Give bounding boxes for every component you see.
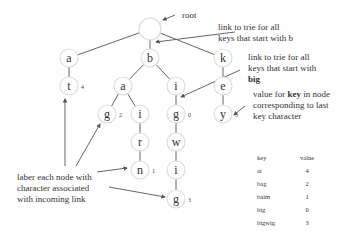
node-label: e: [220, 79, 225, 93]
label-line1: laber each node with: [17, 172, 92, 183]
trie-edge: [69, 29, 150, 58]
table-row: at4: [257, 164, 327, 177]
node-value: 3: [188, 197, 191, 203]
link-big-line1: link to trie for all: [248, 52, 316, 63]
trie-edge: [150, 29, 223, 58]
trie-node: y5: [214, 105, 238, 123]
link-b-line1: link to trie for all: [218, 22, 293, 33]
node-label: a: [120, 79, 126, 93]
node-label: g: [173, 192, 179, 206]
key-cell: bigwig: [257, 216, 275, 229]
trie-node: i: [131, 105, 149, 123]
label-arrow-n: [97, 168, 127, 172]
node-label: b: [147, 51, 153, 65]
value-line2: corresponding to last: [253, 100, 330, 111]
label-arrow-g: [76, 124, 100, 166]
value-annotation: value for key in node corresponding to l…: [253, 89, 330, 122]
trie-node: a: [114, 77, 132, 95]
trie-node: r: [131, 133, 149, 151]
node-label: r: [138, 135, 142, 149]
table-header-row: key value: [257, 151, 327, 164]
node-circle: [139, 18, 161, 40]
value-header: value: [275, 151, 327, 164]
label-line3: with incoming link: [17, 194, 92, 205]
node-label: y: [220, 107, 226, 121]
value-cell: 4: [275, 164, 327, 177]
link-big-line3: big: [248, 74, 260, 84]
value-cell: 2: [275, 177, 327, 190]
root-arrow: [163, 15, 175, 20]
trie-node: b: [141, 49, 159, 67]
node-label: n: [137, 163, 143, 177]
value-cell: 0: [275, 203, 327, 216]
table-row: bag2: [257, 177, 327, 190]
trie-node: i: [167, 161, 185, 179]
trie-node: a: [60, 49, 78, 67]
root-label: root: [182, 10, 197, 20]
value-cell: 1: [275, 190, 327, 203]
node-label: g: [173, 107, 179, 121]
value-line1-bold: key: [287, 89, 301, 99]
key-cell: baim: [257, 190, 275, 203]
link-big-line2: keys that start with: [248, 63, 316, 74]
node-value: 4: [81, 84, 84, 90]
key-cell: at: [257, 164, 275, 177]
root-annotation: root: [182, 10, 197, 21]
trie-node: t4: [60, 77, 84, 95]
table-row: key5: [257, 229, 327, 234]
value-line1-pre: value for: [253, 89, 287, 99]
value-line3: key character: [253, 111, 330, 122]
label-annotation: laber each node with character associate…: [17, 172, 92, 205]
link-b-line2: keys that start with b: [218, 33, 293, 44]
value-line1-post: in node: [301, 89, 330, 99]
node-label: w: [172, 135, 181, 149]
node-label: g: [104, 107, 110, 121]
label-arrow-g-bottom: [109, 187, 165, 197]
trie-node: g2: [98, 105, 122, 123]
node-label: a: [66, 51, 72, 65]
table-row: baim1: [257, 190, 327, 203]
trie-node: g0: [167, 105, 191, 123]
key-value-table: key value at4 bag2 baim1 big0 bigwig3 ke…: [257, 151, 327, 234]
trie-node: k: [214, 49, 232, 67]
trie-node: g3: [167, 190, 191, 208]
value-cell: 3: [275, 216, 327, 229]
table-row: big0: [257, 203, 327, 216]
table-row: bigwig3: [257, 216, 327, 229]
node-value: 1: [152, 168, 155, 174]
node-value: 0: [188, 112, 191, 118]
node-value: 2: [119, 112, 122, 118]
label-line2: character associated: [17, 183, 92, 194]
value-cell: 5: [275, 229, 327, 234]
link-b-annotation: link to trie for all keys that start wit…: [218, 22, 293, 44]
key-cell: bag: [257, 177, 275, 190]
key-cell: big: [257, 203, 275, 216]
trie-root-node: [139, 18, 161, 40]
key-header: key: [257, 151, 275, 164]
trie-node: w: [167, 133, 185, 151]
trie-node: e: [214, 77, 232, 95]
key-cell: key: [257, 229, 275, 234]
node-value: 5: [235, 112, 238, 118]
node-label: k: [220, 51, 226, 65]
trie-node: i: [167, 77, 185, 95]
link-big-annotation: link to trie for all keys that start wit…: [248, 52, 316, 85]
trie-node: n1: [131, 161, 155, 179]
